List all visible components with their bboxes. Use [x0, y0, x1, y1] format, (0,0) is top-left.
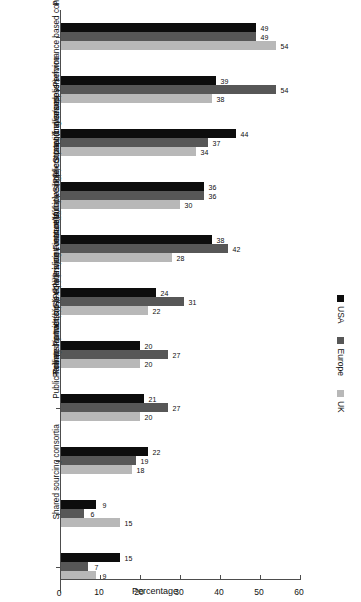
bar-rect [60, 297, 184, 306]
bar-group: 443734 [60, 129, 300, 156]
bar-europe[interactable]: 6 [60, 509, 300, 518]
axis-tick-label: 40 [214, 586, 223, 596]
legend-entry-usa: USA [336, 295, 346, 323]
bar-uk[interactable]: 18 [60, 465, 300, 474]
bar-rect [60, 553, 120, 562]
bar-europe[interactable]: 27 [60, 403, 300, 412]
bar-uk[interactable]: 20 [60, 359, 300, 368]
axis-tick [220, 575, 221, 580]
bar-rect [60, 500, 96, 509]
bar-value-label: 42 [233, 245, 241, 252]
bar-europe[interactable]: 19 [60, 456, 300, 465]
bar-usa[interactable]: 38 [60, 235, 300, 244]
bar-group: 221918 [60, 447, 300, 474]
bar-rect [60, 465, 132, 474]
bar-rect [60, 41, 276, 50]
bar-rect [60, 147, 196, 156]
bar-uk[interactable]: 34 [60, 147, 300, 156]
bar-value-label: 37 [213, 139, 221, 146]
category-axis-line [60, 10, 61, 593]
bar-usa[interactable]: 15 [60, 553, 300, 562]
bar-europe[interactable]: 42 [60, 244, 300, 253]
bar-value-label: 54 [281, 86, 289, 93]
bar-europe[interactable]: 54 [60, 85, 300, 94]
bar-value-label: 49 [261, 24, 269, 31]
bar-value-label: 24 [161, 289, 169, 296]
bar-rect [60, 85, 276, 94]
chart-plot-area: USAEuropeUK 4949543954384437343636303842… [0, 0, 361, 602]
bar-usa[interactable]: 39 [60, 76, 300, 85]
bar-uk[interactable]: 20 [60, 412, 300, 421]
bar-value-label: 31 [189, 298, 197, 305]
bar-usa[interactable]: 21 [60, 394, 300, 403]
bar-uk[interactable]: 30 [60, 200, 300, 209]
bar-value-label: 22 [153, 307, 161, 314]
bar-usa[interactable]: 36 [60, 182, 300, 191]
bar-value-label: 49 [261, 33, 269, 40]
bar-value-label: 28 [177, 254, 185, 261]
bar-value-label: 54 [281, 42, 289, 49]
bar-rect [60, 94, 212, 103]
bar-value-label: 20 [145, 342, 153, 349]
bar-rect [60, 456, 136, 465]
bar-rect [60, 76, 216, 85]
bar-value-label: 6 [91, 510, 95, 517]
bar-usa[interactable]: 44 [60, 129, 300, 138]
bar-group: 243122 [60, 288, 300, 315]
bar-value-label: 27 [173, 351, 181, 358]
axis-tick [140, 575, 141, 580]
bar-rect [60, 447, 148, 456]
axis-tick-label: 50 [254, 586, 263, 596]
bar-rect [60, 235, 212, 244]
bar-uk[interactable]: 15 [60, 518, 300, 527]
bar-value-label: 27 [173, 404, 181, 411]
bar-rect [60, 23, 256, 32]
bar-value-label: 19 [141, 457, 149, 464]
bar-europe[interactable]: 37 [60, 138, 300, 147]
bar-value-label: 30 [185, 201, 193, 208]
bar-value-label: 9 [103, 572, 107, 579]
bar-group: 202720 [60, 341, 300, 368]
bar-rect [60, 562, 88, 571]
bar-group: 9615 [60, 500, 300, 527]
bar-value-label: 20 [145, 360, 153, 367]
bar-europe[interactable]: 49 [60, 32, 300, 41]
axis-tick-label: 60 [294, 586, 303, 596]
bar-value-label: 38 [217, 95, 225, 102]
legend-label: Europe [336, 348, 346, 375]
bar-usa[interactable]: 20 [60, 341, 300, 350]
bar-value-label: 9 [103, 501, 107, 508]
bar-europe[interactable]: 27 [60, 350, 300, 359]
legend-label: UK [336, 401, 346, 413]
axis-tick-label: 10 [94, 586, 103, 596]
bar-value-label: 39 [221, 77, 229, 84]
axis-tick [260, 575, 261, 580]
bar-uk[interactable]: 28 [60, 253, 300, 262]
bar-rect [60, 341, 140, 350]
bar-value-label: 15 [125, 519, 133, 526]
bar-rect [60, 403, 168, 412]
bar-uk[interactable]: 54 [60, 41, 300, 50]
bar-usa[interactable]: 24 [60, 288, 300, 297]
bar-uk[interactable]: 38 [60, 94, 300, 103]
axis-tick-label: 20 [134, 586, 143, 596]
bar-europe[interactable]: 31 [60, 297, 300, 306]
bar-europe[interactable]: 7 [60, 562, 300, 571]
bar-rect [60, 288, 156, 297]
legend-swatch-icon [338, 337, 345, 344]
bar-europe[interactable]: 36 [60, 191, 300, 200]
legend-swatch-icon [338, 295, 345, 302]
bar-value-label: 36 [209, 192, 217, 199]
bar-rect [60, 32, 256, 41]
bar-value-label: 22 [153, 448, 161, 455]
bar-value-label: 38 [217, 236, 225, 243]
bar-rect [60, 359, 140, 368]
bar-group: 212720 [60, 394, 300, 421]
bar-rect [60, 129, 236, 138]
bar-rect [60, 244, 228, 253]
bar-usa[interactable]: 9 [60, 500, 300, 509]
bar-uk[interactable]: 22 [60, 306, 300, 315]
bar-usa[interactable]: 49 [60, 23, 300, 32]
axis-tick [300, 575, 301, 580]
bar-usa[interactable]: 22 [60, 447, 300, 456]
